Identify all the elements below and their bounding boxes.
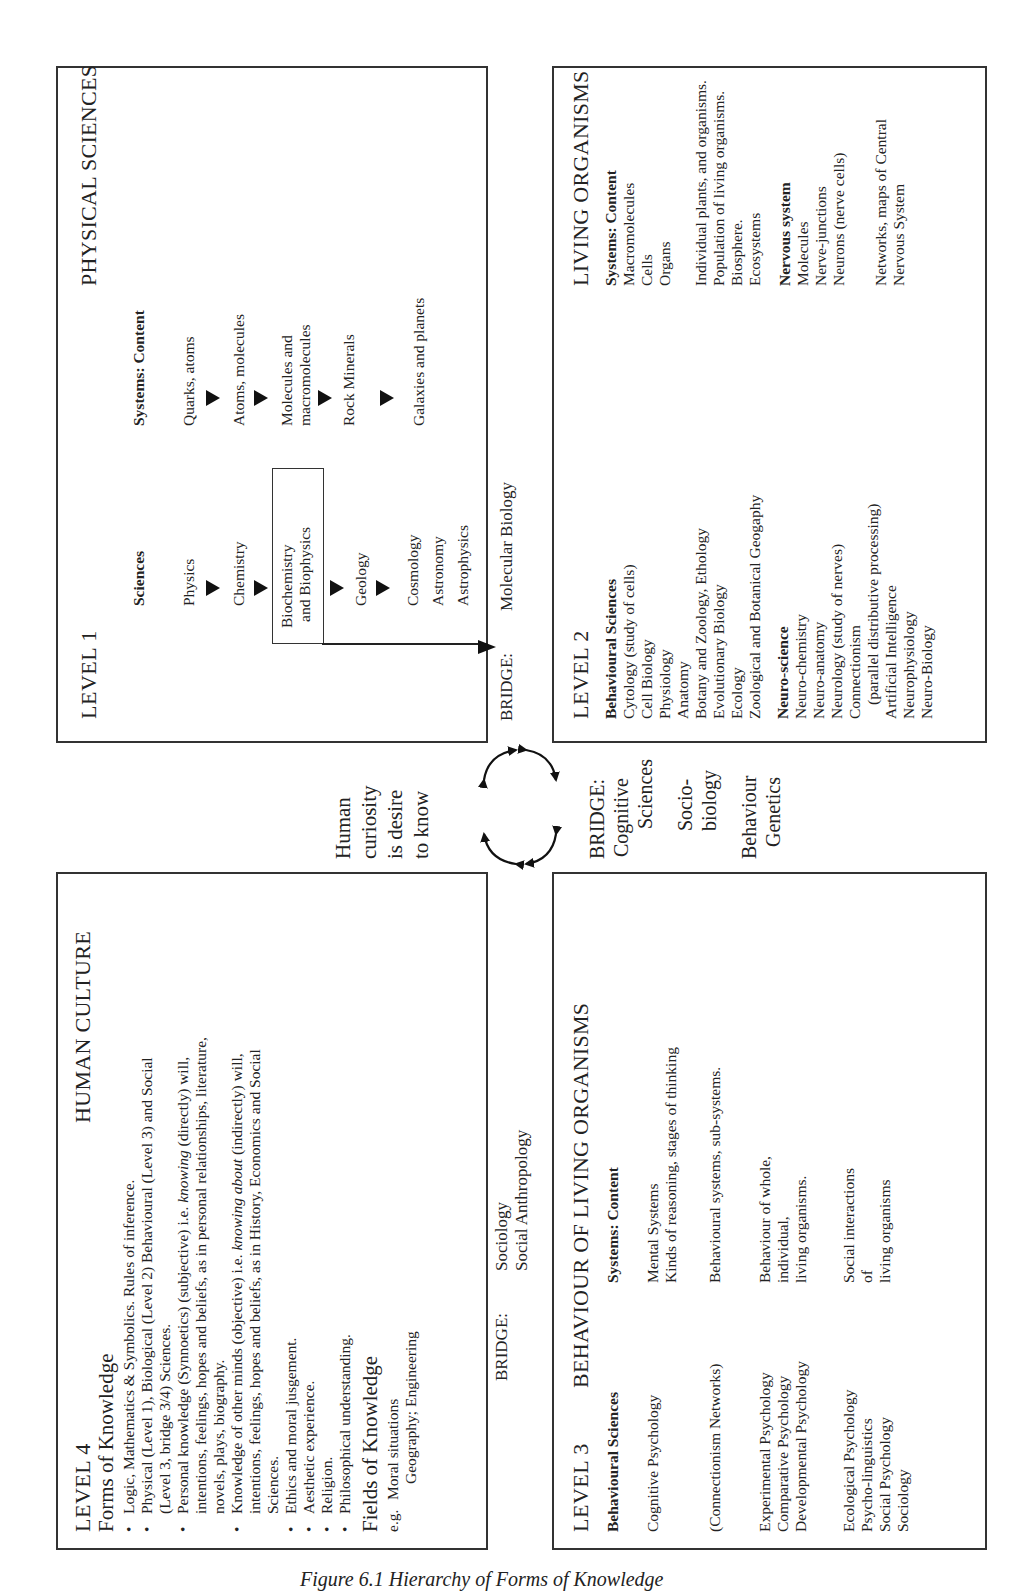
curiosity-text: Human curiosity is desire to know: [330, 786, 434, 860]
level4-title: HUMAN CULTURE: [70, 931, 96, 1123]
level2-box: LEVEL 2 LIVING ORGANISMS Behavioural Sci…: [552, 66, 987, 743]
system-galaxies: Galaxies and planets: [410, 298, 428, 426]
form-item: •Knowledge of other minds (objective) i.…: [228, 892, 246, 1532]
form-item: •Logic, Mathematics & Symbolics. Rules o…: [120, 892, 138, 1532]
level3-systems-header: Systems: Content: [604, 1167, 622, 1283]
systems-header: Systems: Content: [130, 310, 148, 426]
down-arrow-icon: [318, 390, 336, 406]
level1-box: LEVEL 1 PHYSICAL SCIENCES Sciences Syste…: [56, 66, 488, 743]
sciences-header: Sciences: [130, 551, 148, 606]
science-biochemistry: Biochemistry and Biophysics: [278, 527, 314, 628]
forms-of-knowledge-heading: Forms of Knowledge: [94, 1354, 118, 1532]
level2-networks: Networks, maps of Central Nervous System: [872, 119, 908, 286]
form-item: •Physical (Level 1), Biological (Level 2…: [138, 892, 156, 1532]
bridge-1-2: BRIDGE:Molecular Biology: [497, 482, 517, 721]
level3-label: LEVEL 3: [568, 1443, 594, 1532]
bridge-2-3: BRIDGE: Cognitive Sciences Socio- biolog…: [585, 759, 785, 859]
level2-systems-column: Systems: Content Macromolecules Cells Or…: [602, 170, 674, 286]
system-atoms: Atoms, molecules: [230, 314, 248, 426]
form-item: •Religion.: [318, 892, 336, 1532]
fields-of-knowledge-heading: Fields of Knowledge: [358, 1356, 382, 1532]
level2-label: LEVEL 2: [568, 630, 594, 719]
level3-row: Cognitive Psychology: [644, 1395, 662, 1532]
level3-box: LEVEL 3 BEHAVIOUR OF LIVING ORGANISMS Be…: [552, 872, 987, 1550]
level4-label: LEVEL 4: [70, 1443, 96, 1532]
level2-title: LIVING ORGANISMS: [568, 70, 594, 286]
down-arrow-icon: [376, 580, 394, 596]
down-arrow-icon: [206, 580, 224, 596]
level3-row: Experimental Psychology Comparative Psyc…: [756, 1361, 810, 1532]
down-arrow-icon: [330, 580, 348, 596]
cycle-arrows-icon: [478, 742, 562, 872]
level3-row: Ecological Psychology Psycho-linguistics…: [840, 1390, 912, 1533]
down-arrow-icon: [254, 390, 272, 406]
level3-row: (Connectionism Networks): [706, 1364, 724, 1532]
figure-caption-visible: Figure 6.1 Hierarchy of Forms of Knowled…: [300, 1568, 663, 1591]
bridge-arrow-icon: [478, 640, 496, 654]
level2-behavioural-column: Behavioural Sciences Cytology (study of …: [602, 495, 936, 719]
level1-title: PHYSICAL SCIENCES: [76, 65, 102, 286]
down-arrow-icon: [380, 390, 398, 406]
biochem-connector-line: [322, 643, 488, 645]
form-item: •Ethics and moral jusgement.: [282, 892, 300, 1532]
down-arrow-icon: [254, 580, 272, 596]
level1-label: LEVEL 1: [76, 630, 102, 719]
science-physics: Physics: [180, 559, 198, 606]
science-geology: Geology: [352, 553, 370, 606]
level3-title: BEHAVIOUR OF LIVING ORGANISMS: [568, 1003, 594, 1388]
system-molecules: Molecules and macromolecules: [278, 324, 314, 426]
down-arrow-icon: [206, 390, 224, 406]
system-quarks: Quarks, atoms: [180, 336, 198, 426]
level3-sciences-header: Behavioural Sciences: [604, 1392, 622, 1532]
form-item: •Personal knowledge (Synnoetics) (subjec…: [174, 892, 192, 1532]
science-cosmology: Cosmology Astronomy Astrophysics: [400, 525, 475, 606]
form-item: •Philosophical understanding.: [336, 892, 354, 1532]
system-rock: Rock Minerals: [340, 334, 358, 426]
forms-list: •Logic, Mathematics & Symbolics. Rules o…: [120, 892, 354, 1532]
bridge-3-4: BRIDGE:Sociology Social Anthropology: [492, 1130, 532, 1381]
form-item: •Aesthetic experience.: [300, 892, 318, 1532]
science-chemistry: Chemistry: [230, 541, 248, 606]
level2-systems-b: Individual plants, and organisms. Popula…: [692, 80, 764, 286]
level4-box: LEVEL 4 HUMAN CULTURE Forms of Knowledge…: [56, 872, 488, 1550]
fields-list: e.g.Moral situations Geography; Engineer…: [384, 1331, 420, 1532]
level2-nervous: Nervous system Molecules Nerve-junctions…: [776, 153, 848, 286]
